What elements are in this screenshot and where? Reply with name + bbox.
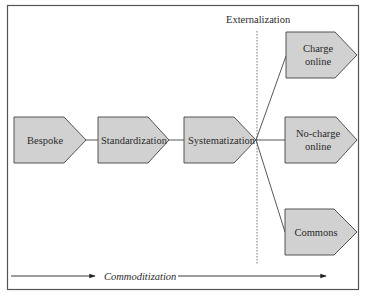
process-diagram: Externalization Bespoke Standardization … [0,0,367,299]
node-label: Commons [294,227,337,238]
node-label-line2: online [305,141,332,152]
node-label: Standardization [101,135,168,146]
node-label-line1: No-charge [296,128,340,139]
node-standardization: Standardization [98,117,169,163]
node-systematization: Systematization [184,117,256,163]
externalization-label: Externalization [226,14,291,25]
edge-systematization-commons [256,140,285,232]
node-charge-online: Charge online [286,32,357,78]
node-label-line1: Charge [303,43,333,54]
node-label: Systematization [188,135,256,146]
node-commons: Commons [285,209,357,255]
node-no-charge-online: No-charge online [285,117,357,163]
edge-systematization-charge-online [256,56,286,140]
node-label: Bespoke [27,135,64,146]
node-label-line2: online [305,56,332,67]
node-bespoke: Bespoke [14,117,86,163]
commoditization-label: Commoditization [104,271,176,282]
